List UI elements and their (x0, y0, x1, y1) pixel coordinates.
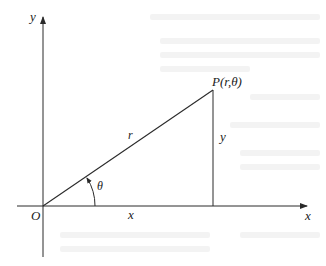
polar-coordinates-diagram: y P(r,θ) r y θ O x x (0, 0, 326, 266)
vertical-leg-label: y (218, 129, 226, 144)
point-label: P(r,θ) (211, 74, 242, 89)
x-axis-label: x (304, 208, 311, 223)
y-axis-label: y (28, 9, 36, 24)
radius-line (43, 90, 213, 206)
horizontal-leg-label: x (127, 207, 134, 222)
origin-label: O (31, 208, 41, 223)
radius-label: r (128, 128, 133, 142)
angle-label: θ (97, 179, 103, 193)
angle-arc (87, 178, 95, 206)
